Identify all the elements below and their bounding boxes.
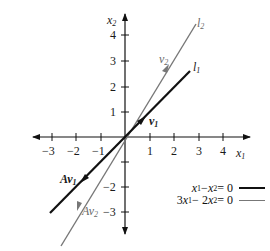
x-tick-label: 2 xyxy=(171,145,177,157)
vector-label-av2: Av2 xyxy=(82,205,98,219)
legend-swatch-dark xyxy=(239,187,265,189)
y-tick-label: 3 xyxy=(110,55,116,67)
x-tick-label: 1 xyxy=(147,145,153,157)
vector-label-v2: v2 xyxy=(159,53,168,67)
x-tick-label: 4 xyxy=(220,145,226,157)
y-tick-label: −2 xyxy=(103,181,116,193)
y-axis-label: x2 xyxy=(107,14,116,28)
coordinate-plot xyxy=(0,0,270,251)
vector-label-v1: v1 xyxy=(149,115,158,129)
x-axis-label: x1 xyxy=(236,147,245,161)
line-label-l1: l1 xyxy=(193,61,200,75)
line-label-l2: l2 xyxy=(197,17,204,31)
y-tick-label: 1 xyxy=(110,106,116,118)
x-tick-label: −3 xyxy=(42,145,55,157)
legend-swatch-light xyxy=(239,200,265,201)
x-tick-label: 3 xyxy=(196,145,202,157)
y-tick-label: 2 xyxy=(110,81,116,93)
y-tick-label: 4 xyxy=(110,29,116,41)
y-axis xyxy=(121,14,129,234)
y-tick-label: −3 xyxy=(103,206,116,218)
x-tick-label: −2 xyxy=(67,145,80,157)
x-tick-label: −1 xyxy=(92,145,105,157)
x-axis xyxy=(33,133,250,141)
legend: x1 − x2 = 0 3x1 − 2x2 = 0 xyxy=(165,182,265,206)
legend-item-l2: 3x1 − 2x2 = 0 xyxy=(165,194,265,206)
vector-label-av1: Av1 xyxy=(60,173,76,187)
